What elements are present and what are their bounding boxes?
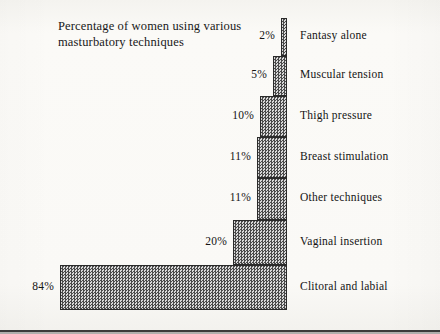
bar-category-label: Clitoral and labial [300,280,388,292]
bar-value-label: 5% [207,68,267,80]
bar [60,265,287,310]
bar-value-label: 10% [194,109,254,121]
bar-value-label: 20% [167,235,227,247]
chart-page: Percentage of women using various mastur… [0,0,440,334]
bar-category-label: Breast stimulation [300,150,389,162]
bar-chart-plot: 2%Fantasy alone5%Muscular tension10%Thig… [0,0,440,334]
bar-category-label: Other techniques [300,191,382,203]
bar [260,96,287,137]
bar [281,18,287,56]
bar [257,178,287,220]
bar-value-label: 84% [0,280,54,292]
bar-value-label: 11% [191,150,251,162]
page-bottom-edge [0,330,440,332]
bar [257,137,287,178]
bar [233,220,287,265]
bar [273,56,287,96]
bar-category-label: Fantasy alone [300,29,367,41]
bar-category-label: Vaginal insertion [300,235,383,247]
bar-value-label: 11% [191,191,251,203]
bar-category-label: Thigh pressure [300,109,372,121]
bar-category-label: Muscular tension [300,68,384,80]
bar-value-label: 2% [215,29,275,41]
